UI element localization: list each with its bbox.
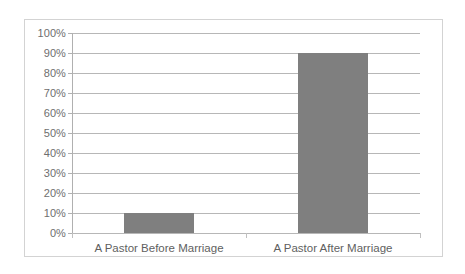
gridline-20 — [72, 193, 420, 194]
plot-area — [72, 33, 420, 233]
y-tick-mark-60 — [68, 113, 72, 114]
y-axis-tick-labels: 100% 90% 80% 70% 60% 50% 40% 30% 20% 10%… — [18, 0, 66, 274]
gridline-60 — [72, 113, 420, 114]
x-tick-mark-end — [420, 233, 421, 238]
y-tick-label-100: 100% — [22, 28, 66, 39]
y-tick-label-0: 0% — [22, 228, 66, 239]
bar-pastor-after-marriage[interactable] — [298, 53, 368, 233]
y-tick-mark-70 — [68, 93, 72, 94]
y-tick-mark-100 — [68, 33, 72, 34]
y-tick-label-40: 40% — [22, 148, 66, 159]
y-tick-mark-50 — [68, 133, 72, 134]
x-tick-mark-start — [72, 233, 73, 238]
y-tick-mark-80 — [68, 73, 72, 74]
y-axis-line — [72, 33, 73, 234]
x-tick-mark-middle — [246, 233, 247, 238]
gridline-70 — [72, 93, 420, 94]
gridline-30 — [72, 173, 420, 174]
bar-chart: 100% 90% 80% 70% 60% 50% 40% 30% 20% 10%… — [0, 0, 465, 274]
y-tick-label-10: 10% — [22, 208, 66, 219]
gridline-100 — [72, 33, 420, 34]
x-category-label-pastor-after-marriage: A Pastor After Marriage — [246, 241, 420, 255]
gridline-50 — [72, 133, 420, 134]
y-tick-label-60: 60% — [22, 108, 66, 119]
gridline-40 — [72, 153, 420, 154]
x-category-label-pastor-before-marriage: A Pastor Before Marriage — [72, 241, 246, 255]
y-tick-mark-90 — [68, 53, 72, 54]
gridline-90 — [72, 53, 420, 54]
bar-pastor-before-marriage[interactable] — [124, 213, 194, 233]
y-tick-mark-10 — [68, 213, 72, 214]
gridline-80 — [72, 73, 420, 74]
y-tick-label-50: 50% — [22, 128, 66, 139]
y-tick-mark-30 — [68, 173, 72, 174]
y-tick-mark-20 — [68, 193, 72, 194]
y-tick-label-20: 20% — [22, 188, 66, 199]
y-tick-label-70: 70% — [22, 88, 66, 99]
y-tick-label-30: 30% — [22, 168, 66, 179]
y-tick-mark-40 — [68, 153, 72, 154]
y-tick-label-90: 90% — [22, 48, 66, 59]
y-tick-label-80: 80% — [22, 68, 66, 79]
